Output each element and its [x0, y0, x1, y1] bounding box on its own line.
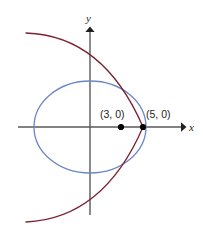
- conic-graph-figure: y x (3, 0) (5, 0): [0, 0, 203, 237]
- y-axis-label: y: [85, 12, 91, 24]
- point-marker-3-0: [118, 124, 124, 130]
- graph-canvas: y x (3, 0) (5, 0): [0, 0, 203, 237]
- y-axis-arrow-icon: [85, 27, 94, 33]
- x-axis-label: x: [188, 121, 194, 133]
- point-marker-5-0: [140, 124, 146, 130]
- x-axis-arrow-icon: [181, 122, 187, 131]
- point-label-3-0: (3, 0): [100, 108, 125, 120]
- point-label-5-0: (5, 0): [146, 108, 171, 120]
